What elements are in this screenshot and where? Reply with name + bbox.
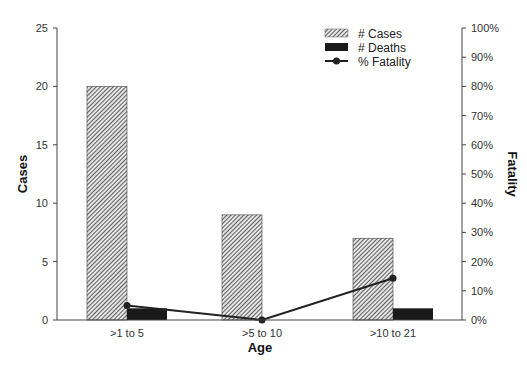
y2-tick-label: 100% [471,22,499,34]
y2-tick-label: 80% [471,80,493,92]
y2-tick-label: 30% [471,226,493,238]
y-tick-label: 15 [36,139,48,151]
y2-tick-label: 10% [471,285,493,297]
y-axis-right: 0%10%20%30%40%50%60%70%80%90%100% [462,22,499,326]
y-tick-label: 20 [36,80,48,92]
y-tick-label: 5 [42,256,48,268]
legend-label: # Deaths [358,41,406,55]
legend-marker [333,58,340,65]
x-tick-label: >10 to 21 [370,327,416,339]
x-axis: >1 to 5>5 to 10>10 to 21 [57,320,462,339]
fatality-marker [390,275,397,282]
bar-deaths [393,308,433,320]
chart: 0510152025 0%10%20%30%40%50%60%70%80%90%… [0,0,527,371]
legend-swatch-cases [325,29,348,37]
bar-cases [87,86,127,320]
y2-tick-label: 50% [471,168,493,180]
y2-tick-label: 20% [471,256,493,268]
y-axis-title: Cases [15,155,30,193]
bar-cases [222,215,262,320]
y-tick-label: 25 [36,22,48,34]
y2-axis-title: Fatality [505,151,520,197]
y2-tick-label: 40% [471,197,493,209]
y2-tick-label: 90% [471,51,493,63]
y-tick-label: 10 [36,197,48,209]
x-tick-label: >5 to 10 [242,327,282,339]
legend-label: # Cases [358,27,402,41]
legend: # Cases# Deaths% Fatality [325,27,411,69]
legend-label: % Fatality [358,55,411,69]
y2-tick-label: 0% [471,314,487,326]
fatality-marker [124,302,131,309]
x-axis-title: Age [248,340,273,355]
y-tick-label: 0 [42,314,48,326]
x-tick-label: >1 to 5 [110,327,144,339]
y2-tick-label: 70% [471,110,493,122]
bars [87,86,433,320]
y2-tick-label: 60% [471,139,493,151]
legend-swatch-deaths [325,43,348,51]
y-axis-left: 0510152025 [36,22,57,326]
